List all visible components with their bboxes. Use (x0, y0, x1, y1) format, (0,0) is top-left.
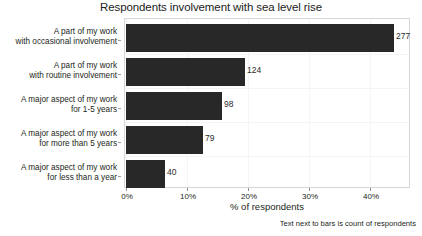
category-label: A major aspect of my work for less than … (0, 163, 117, 183)
chart-footnote: Text next to bars is count of respondent… (280, 219, 416, 228)
bars-layer: 277 124 98 79 40 (125, 19, 409, 187)
category-label: A major aspect of my work for more than … (0, 129, 117, 149)
category-label-line: A major aspect of my work (0, 95, 117, 105)
bar-value-label: 124 (247, 65, 261, 75)
x-axis-tick-label: 0% (121, 192, 133, 201)
chart-title: Respondents involvement with sea level r… (0, 1, 422, 13)
category-label-line: for more than 5 years (0, 139, 117, 149)
bar[interactable] (126, 24, 394, 52)
category-tick (118, 108, 121, 109)
x-axis-tick-label: 20% (241, 192, 257, 201)
x-axis-tick-label: 10% (180, 192, 196, 201)
category-label-line: with routine involvement (0, 71, 117, 81)
category-label: A part of my work with occasional involv… (0, 27, 117, 47)
x-axis-title: % of respondents (124, 201, 410, 212)
x-axis-tick-label: 30% (302, 192, 318, 201)
category-tick (118, 74, 121, 75)
x-axis-tick (309, 188, 310, 191)
bar-value-label: 40 (167, 167, 176, 177)
x-axis-tick (370, 188, 371, 191)
bar-value-label: 98 (224, 99, 233, 109)
bar-value-label: 277 (396, 31, 410, 41)
category-tick (118, 40, 121, 41)
category-tick (118, 142, 121, 143)
category-tick (118, 176, 121, 177)
y-axis-category-labels: A part of my work with occasional involv… (0, 18, 121, 188)
category-label-line: for less than a year (0, 173, 117, 183)
category-label-line: with occasional involvement (0, 37, 117, 47)
x-axis: 0% 10% 20% 30% 40% (124, 188, 410, 202)
bar[interactable] (126, 58, 245, 86)
bar[interactable] (126, 92, 222, 120)
x-axis-tick (126, 188, 127, 191)
category-label: A part of my work with routine involveme… (0, 61, 117, 81)
bar[interactable] (126, 126, 203, 154)
category-label: A major aspect of my work for 1-5 years (0, 95, 117, 115)
category-label-line: A major aspect of my work (0, 129, 117, 139)
bar-value-label: 79 (205, 133, 214, 143)
x-axis-tick-label: 40% (363, 192, 379, 201)
x-axis-tick (187, 188, 188, 191)
category-label-line: for 1-5 years (0, 105, 117, 115)
plot-area: 277 124 98 79 40 (124, 18, 410, 188)
category-label-line: A part of my work (0, 61, 117, 71)
x-axis-tick (248, 188, 249, 191)
category-label-line: A major aspect of my work (0, 163, 117, 173)
bar[interactable] (126, 160, 165, 188)
category-label-line: A part of my work (0, 27, 117, 37)
bar-chart-figure: Respondents involvement with sea level r… (0, 0, 422, 236)
